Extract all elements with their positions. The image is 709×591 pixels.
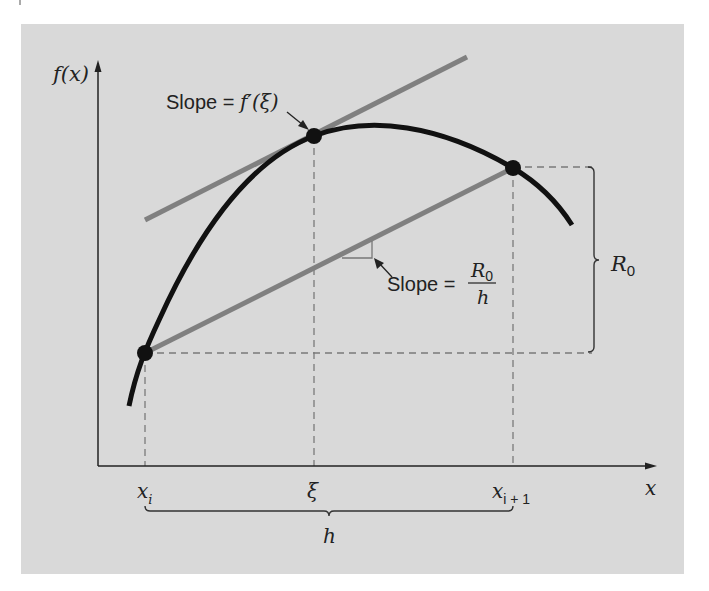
point-xi-mean bbox=[306, 128, 322, 144]
secant-slope-label: Slope = bbox=[387, 273, 455, 295]
secant-slope-denominator: h bbox=[477, 286, 489, 308]
tangent-slope-label: Slope = f′(ξ) bbox=[166, 90, 279, 114]
figure-panel bbox=[21, 24, 684, 574]
point-xi bbox=[137, 345, 153, 361]
h-label: h bbox=[323, 524, 336, 548]
x-axis-label: x bbox=[645, 476, 656, 500]
mean-value-theorem-diagram: f(x) x xi ξ xi + 1 h R0 Slope = f′(ξ) Sl… bbox=[0, 0, 709, 591]
tick-label-xi-mean: ξ bbox=[307, 479, 319, 503]
point-xi1 bbox=[505, 160, 521, 176]
y-axis-label: f(x) bbox=[51, 62, 89, 86]
